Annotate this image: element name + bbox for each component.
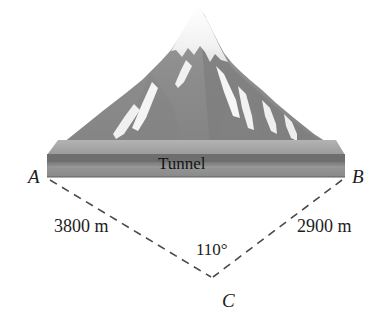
angle-C-label: 110° — [196, 240, 228, 260]
side-length-BC-label: 2900 m — [297, 216, 352, 237]
mountain-graphic — [58, 7, 334, 147]
ridge-right-shadow — [199, 9, 334, 147]
vertex-label-C: C — [222, 290, 235, 312]
slab-top-face — [47, 140, 345, 155]
mountain-tunnel-figure: A B C 3800 m 2900 m 110° Tunnel — [0, 0, 377, 322]
side-length-AC-label: 3800 m — [54, 216, 109, 237]
vertex-label-A: A — [28, 166, 40, 188]
tunnel-label: Tunnel — [158, 154, 206, 174]
vertex-label-B: B — [352, 166, 364, 188]
